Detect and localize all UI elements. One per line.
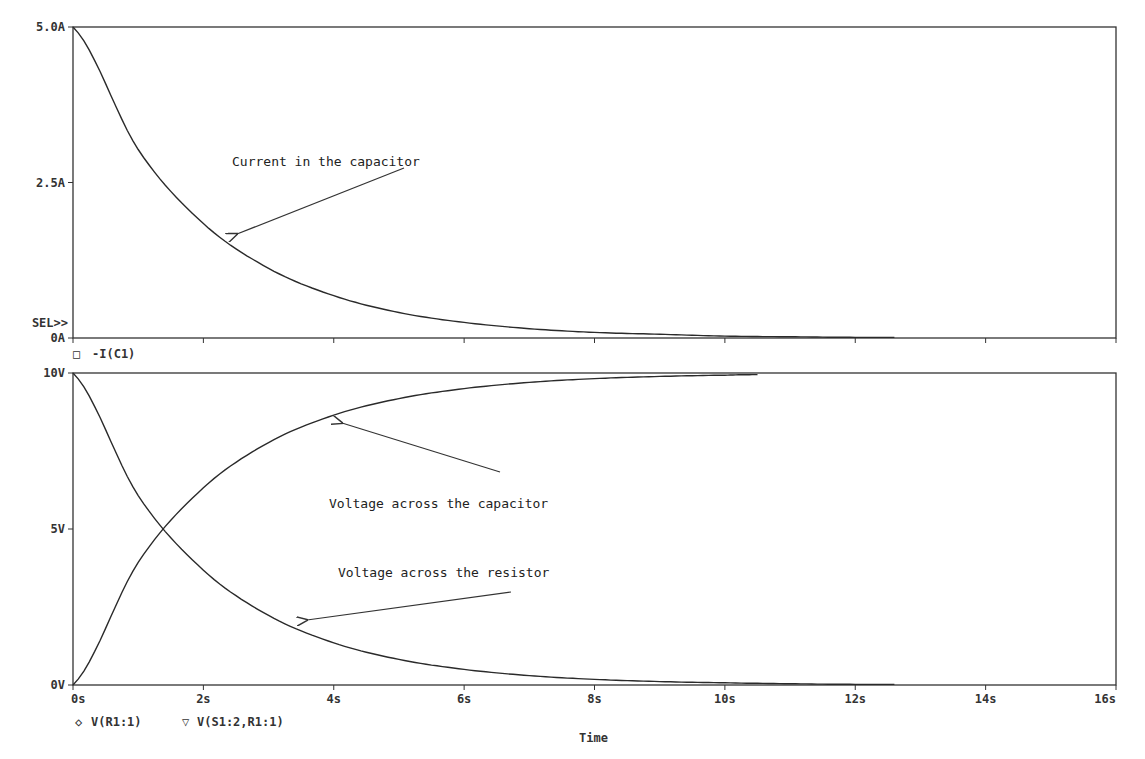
trace-current-capacitor[interactable] [73, 27, 894, 337]
x-tick-label: 8s [587, 692, 601, 706]
legend-trace-ic[interactable]: -I(C1) [92, 347, 135, 361]
top-plot[interactable]: 5.0A 2.5A 0A SEL>> Current in the capaci… [32, 20, 1116, 361]
legend-trace-vr[interactable]: V(R1:1) [91, 715, 142, 729]
x-tick-label: 4s [327, 692, 341, 706]
x-tick-label: 14s [975, 692, 997, 706]
y-label-bottom-mid: 5V [51, 522, 65, 536]
x-axis-title: Time [579, 731, 608, 745]
x-tick-label: 2s [196, 692, 210, 706]
x-tick-label: 0s [71, 692, 85, 706]
bottom-plot[interactable]: 10V 5V 0V Voltage across the capacitor V… [43, 366, 1116, 692]
annotation-arrow-vcap [342, 423, 500, 472]
annotation-arrow-vres [307, 592, 511, 620]
annotation-voltage-resistor: Voltage across the resistor [338, 565, 549, 580]
annotation-voltage-capacitor: Voltage across the capacitor [329, 496, 548, 511]
selected-plot-marker[interactable]: SEL>> [32, 316, 68, 330]
legend-symbol-vr: ◇ [75, 715, 83, 729]
x-tick-label: 12s [844, 692, 866, 706]
y-label-top-max: 5.0A [36, 20, 66, 34]
pspice-probe-chart: 5.0A 2.5A 0A SEL>> Current in the capaci… [0, 0, 1145, 759]
legend-symbol-ic: □ [73, 347, 80, 361]
bottom-plot-frame [73, 373, 1116, 685]
x-tick-label: 10s [714, 692, 736, 706]
x-axis: 0s2s4s6s8s10s12s14s16s [71, 338, 1116, 706]
y-label-top-mid: 2.5A [36, 176, 66, 190]
y-label-bottom-min: 0V [51, 678, 65, 692]
top-plot-frame [73, 27, 1116, 338]
annotation-arrow-current [237, 168, 404, 234]
x-tick-label: 6s [457, 692, 471, 706]
legend-trace-vc[interactable]: V(S1:2,R1:1) [197, 715, 284, 729]
y-label-top-min: 0A [51, 331, 66, 345]
legend-symbol-vc: ▽ [182, 715, 190, 729]
x-tick-label: 16s [1094, 692, 1116, 706]
annotation-current-capacitor: Current in the capacitor [232, 154, 420, 169]
y-label-bottom-max: 10V [43, 366, 65, 380]
trace-voltage-capacitor[interactable] [73, 375, 758, 685]
trace-voltage-resistor[interactable] [73, 373, 894, 684]
